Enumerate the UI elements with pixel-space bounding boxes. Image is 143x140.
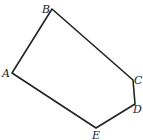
vertex-label-d: D [132,103,142,116]
vertex-label-c: C [134,74,143,87]
pentagon-diagram: A B C D E [0,0,143,140]
pentagon-shape [12,9,135,128]
vertex-label-a: A [1,67,10,80]
vertex-label-b: B [41,3,50,16]
vertex-label-e: E [91,129,100,140]
